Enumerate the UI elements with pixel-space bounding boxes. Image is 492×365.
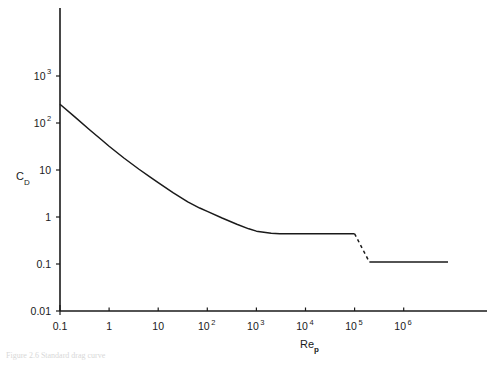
svg-text:2: 2	[211, 318, 215, 327]
svg-text:10: 10	[152, 320, 164, 332]
y-axis-label: 10	[39, 164, 51, 176]
drag-coefficient-chart: 1031021010.10.010.1110102103104105106CDR…	[0, 0, 492, 365]
x-axis-label: 104	[296, 318, 313, 333]
svg-text:2: 2	[47, 114, 51, 123]
figure-caption: Figure 2.6 Standard drag curve	[6, 351, 306, 360]
x-axis-label: 0.1	[53, 320, 68, 332]
svg-text:10: 10	[34, 117, 46, 129]
svg-text:5: 5	[359, 318, 363, 327]
svg-text:p: p	[314, 345, 319, 354]
y-axis-title: CD	[16, 170, 30, 187]
svg-text:0.1: 0.1	[53, 320, 68, 332]
svg-text:10: 10	[34, 70, 46, 82]
svg-text:4: 4	[309, 318, 313, 327]
y-axis-label: 102	[34, 114, 51, 129]
y-axis-label: 103	[34, 67, 51, 82]
svg-text:1: 1	[106, 320, 112, 332]
svg-text:10: 10	[39, 164, 51, 176]
x-axis-label: 105	[345, 318, 362, 333]
y-axis-label: 1	[45, 211, 51, 223]
figure-container: 1031021010.10.010.1110102103104105106CDR…	[0, 0, 492, 365]
svg-text:6: 6	[408, 318, 412, 327]
svg-text:3: 3	[260, 318, 264, 327]
svg-text:D: D	[24, 178, 30, 187]
svg-text:10: 10	[198, 320, 210, 332]
svg-text:10: 10	[394, 320, 406, 332]
x-axis-label: 10	[152, 320, 164, 332]
svg-text:3: 3	[47, 67, 51, 76]
x-axis-label: 1	[106, 320, 112, 332]
svg-text:1: 1	[45, 211, 51, 223]
x-axis-label: 103	[247, 318, 264, 333]
data-series-drag-crisis-transition	[355, 234, 370, 262]
svg-text:Re: Re	[300, 338, 314, 350]
data-series-standard-drag-curve	[60, 104, 355, 233]
svg-text:0.01: 0.01	[31, 305, 52, 317]
svg-text:10: 10	[296, 320, 308, 332]
svg-text:C: C	[16, 170, 24, 182]
svg-text:10: 10	[247, 320, 259, 332]
x-axis-label: 102	[198, 318, 215, 333]
y-axis-label: 0.1	[36, 258, 51, 270]
y-axis-label: 0.01	[31, 305, 52, 317]
x-axis-label: 106	[394, 318, 411, 333]
svg-text:10: 10	[345, 320, 357, 332]
svg-text:0.1: 0.1	[36, 258, 51, 270]
